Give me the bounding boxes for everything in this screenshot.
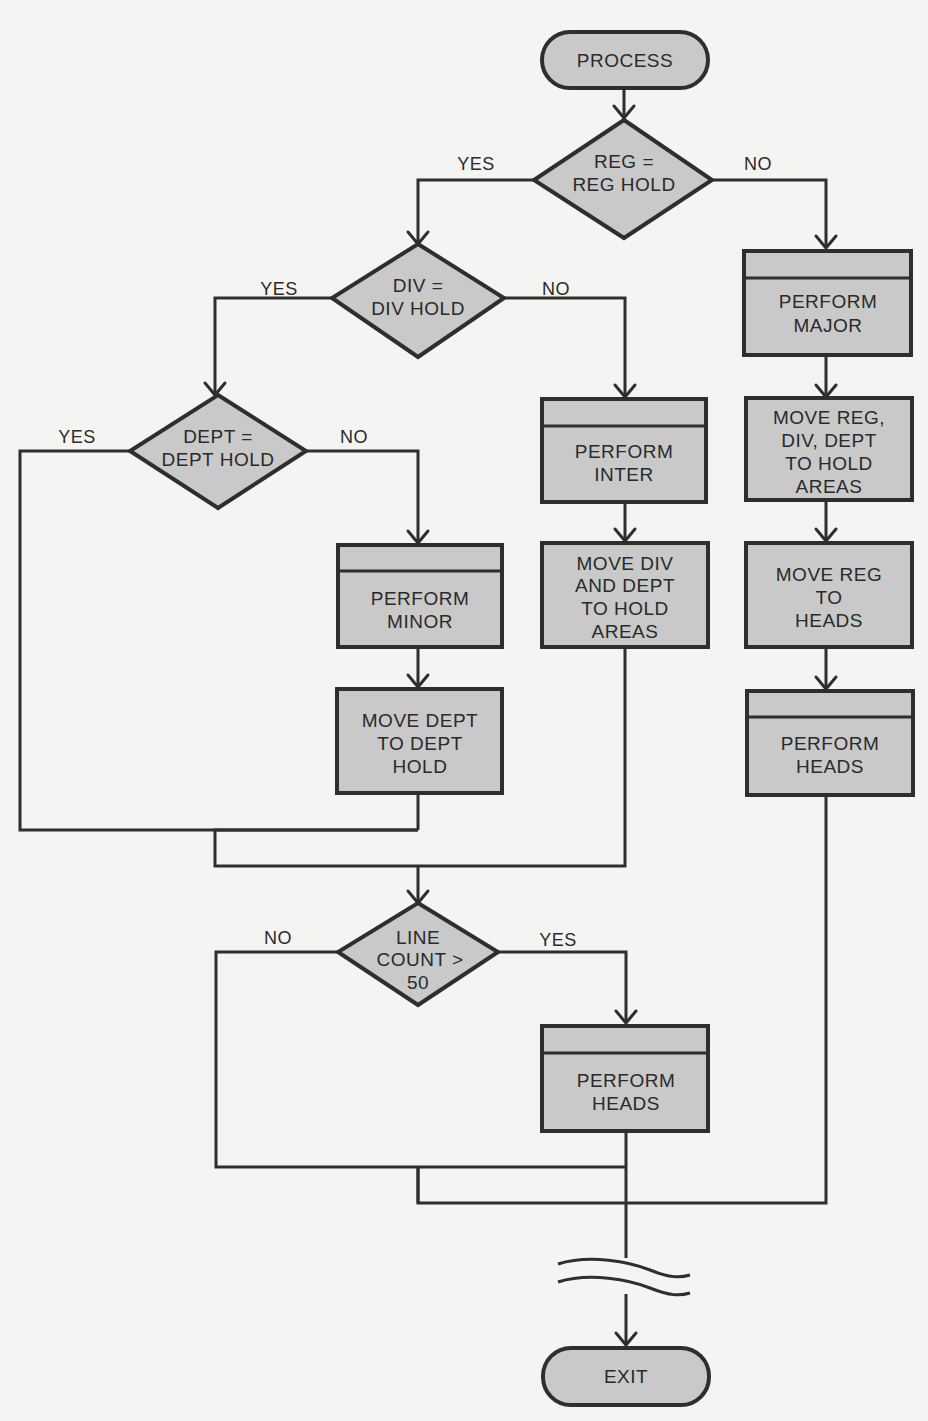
predefined-perform-heads-bottom: PERFORM HEADS (542, 1026, 708, 1131)
flowchart-canvas: PROCESS REG = REG HOLD DIV = DIV HOLD DE… (0, 0, 928, 1421)
node-label: DIV, DEPT (781, 430, 877, 451)
node-label: AND DEPT (575, 575, 675, 596)
node-label: MINOR (387, 611, 453, 632)
node-label: REG HOLD (572, 174, 675, 195)
node-label: DIV HOLD (371, 298, 465, 319)
node-label: HEADS (592, 1093, 660, 1114)
node-label: EXIT (604, 1366, 648, 1387)
connector-heads-right-merge (418, 796, 826, 1203)
process-move-div-dept: MOVE DIV AND DEPT TO HOLD AREAS (542, 543, 708, 647)
edge-label-reg-yes: YES (457, 154, 495, 174)
node-label: AREAS (592, 621, 659, 642)
edge-label-div-no: NO (542, 279, 570, 299)
connector-dept-no (306, 451, 418, 543)
node-label: HEADS (795, 610, 863, 631)
node-label: AREAS (796, 476, 863, 497)
terminal-exit: EXIT (543, 1348, 709, 1405)
connector-line-yes (498, 952, 626, 1023)
node-label: INTER (594, 464, 654, 485)
node-label: MAJOR (794, 315, 863, 336)
node-label: PERFORM (779, 291, 878, 312)
node-label: COUNT > (376, 949, 463, 970)
edge-label-line-yes: YES (539, 930, 577, 950)
predefined-perform-major: PERFORM MAJOR (744, 251, 911, 355)
node-label: DEPT = (183, 426, 253, 447)
node-label: TO (815, 587, 842, 608)
terminal-process: PROCESS (542, 32, 708, 88)
node-label: PERFORM (781, 733, 880, 754)
node-label: PERFORM (577, 1070, 676, 1091)
node-label: PERFORM (371, 588, 470, 609)
node-label: LINE (396, 927, 440, 948)
edge-label-dept-no: NO (340, 427, 368, 447)
edge-label-reg-no: NO (744, 154, 772, 174)
decision-line-count: LINE COUNT > 50 (338, 903, 498, 1005)
predefined-perform-minor: PERFORM MINOR (338, 545, 502, 647)
predefined-perform-heads-right: PERFORM HEADS (747, 691, 913, 795)
connector-merge-left (215, 830, 418, 866)
edge-label-line-no: NO (264, 928, 292, 948)
connector-div-no (504, 298, 625, 397)
arrowheads (205, 106, 836, 1345)
node-label: HOLD (393, 756, 448, 777)
node-label: MOVE REG, (773, 407, 885, 428)
node-label: DIV = (393, 275, 444, 296)
node-label: PERFORM (575, 441, 674, 462)
node-label: MOVE DEPT (362, 710, 478, 731)
connector-reg-no (712, 180, 826, 248)
edge-label-dept-yes: YES (58, 427, 96, 447)
process-move-reg-div-dept: MOVE REG, DIV, DEPT TO HOLD AREAS (746, 398, 912, 500)
decision-div: DIV = DIV HOLD (332, 244, 504, 357)
node-label: PROCESS (577, 50, 673, 71)
node-label: DEPT HOLD (162, 449, 275, 470)
connector-reg-yes (418, 180, 534, 244)
process-move-dept: MOVE DEPT TO DEPT HOLD (337, 689, 502, 793)
break-marker-icon (556, 1258, 692, 1295)
edge-label-div-yes: YES (260, 279, 298, 299)
connector-div-yes (215, 298, 332, 395)
node-label: TO HOLD (785, 453, 873, 474)
node-label: REG = (594, 151, 654, 172)
node-label: HEADS (796, 756, 864, 777)
node-label: MOVE DIV (577, 553, 674, 574)
node-label: TO HOLD (581, 598, 669, 619)
decision-reg: REG = REG HOLD (534, 120, 712, 238)
predefined-perform-inter: PERFORM INTER (542, 399, 706, 502)
node-label: TO DEPT (377, 733, 463, 754)
node-label: MOVE REG (776, 564, 882, 585)
process-move-reg-heads: MOVE REG TO HEADS (746, 543, 912, 647)
node-label: 50 (407, 972, 429, 993)
decision-dept: DEPT = DEPT HOLD (130, 395, 306, 508)
